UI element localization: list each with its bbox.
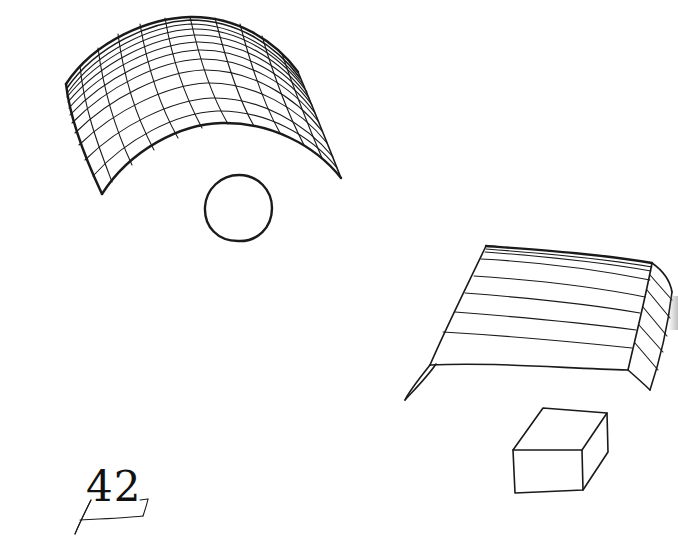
curved-grid-surface (66, 17, 341, 194)
edge-smudge (668, 296, 678, 330)
page-number: 42 (86, 466, 141, 508)
circle-shape (205, 175, 272, 241)
folded-sheet (405, 246, 672, 400)
rectangular-box (513, 408, 608, 493)
